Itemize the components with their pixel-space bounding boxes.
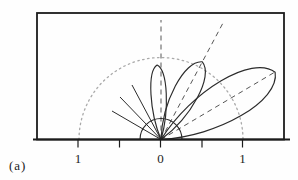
lobe-pattern-plot: 101 bbox=[0, 0, 298, 180]
axis-tick-label-0: 1 bbox=[75, 151, 82, 166]
middle-lobe-axis-line bbox=[161, 23, 223, 140]
figure-caption: (a) bbox=[9, 158, 26, 174]
figure-panel: 101 (a) bbox=[0, 0, 298, 180]
lobe-vertical bbox=[149, 65, 168, 140]
axis-tick-label-2: 0 bbox=[157, 151, 164, 166]
axis-tick-label-4: 1 bbox=[239, 151, 246, 166]
